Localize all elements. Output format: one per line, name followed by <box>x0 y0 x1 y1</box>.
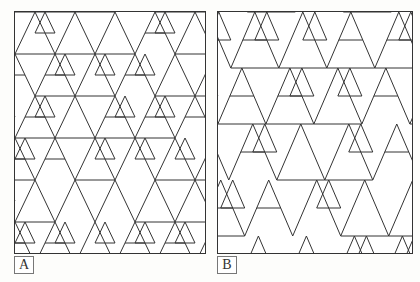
panel-a <box>14 11 206 254</box>
label-b: B <box>217 256 237 274</box>
panel-b <box>217 11 413 254</box>
label-a: A <box>14 256 34 274</box>
triangle-tiling <box>15 12 205 253</box>
triangle-tiling <box>218 12 412 253</box>
